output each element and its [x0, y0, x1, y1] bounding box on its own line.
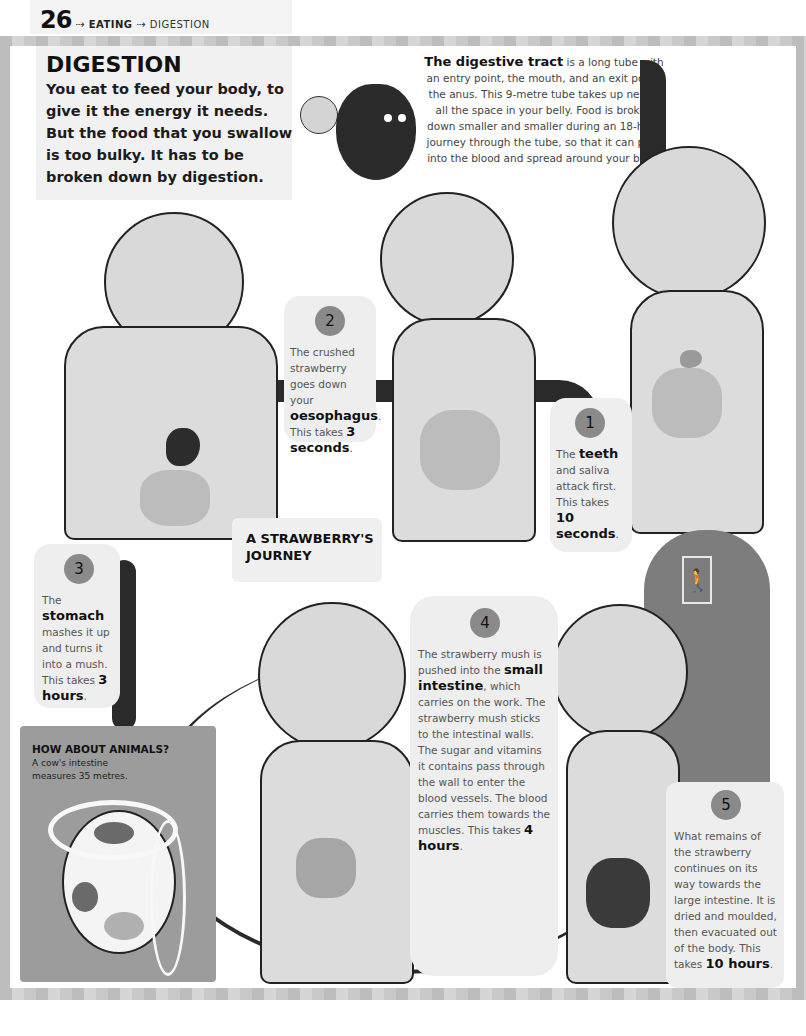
step-text: .	[84, 690, 87, 702]
step-text: The crushed strawberry goes down your	[290, 346, 355, 406]
eye-icon	[384, 114, 392, 122]
digestive-tract-lead: The digestive tract	[424, 54, 563, 69]
step-text: The	[42, 594, 62, 606]
step-keyword: oesophagus	[290, 408, 378, 423]
step-number-badge: 3	[64, 554, 94, 584]
dotted-arrow-icon: ⇢	[75, 18, 84, 31]
step-keyword: teeth	[579, 446, 618, 461]
eye-icon	[398, 114, 406, 122]
dotted-arrow-icon: ⇢	[137, 18, 146, 31]
person-icon: 🚶	[682, 556, 712, 604]
step-number-badge: 1	[575, 408, 605, 438]
step-text: and saliva attack first. This takes	[556, 464, 616, 508]
step-card-4: 4 The strawberry mush is pushed into the…	[410, 596, 558, 976]
breadcrumb-eating[interactable]: EATING	[89, 19, 133, 30]
step-card-3: 3 The stomach mashes it up and turns it …	[34, 544, 120, 708]
intestine-illustration	[296, 838, 356, 898]
door-sign-glyph: 🚶	[684, 568, 711, 593]
step-text: What remains of the strawberry continues…	[674, 830, 777, 970]
page-title: DIGESTION	[46, 52, 182, 77]
cow-udder	[104, 912, 144, 940]
step-number-badge: 5	[711, 790, 741, 820]
step-text: The	[556, 448, 579, 460]
page-number: 26	[40, 6, 71, 34]
torso-illustration	[566, 730, 680, 984]
journey-label: A STRAWBERRY'S JOURNEY	[232, 518, 382, 582]
step-card-2: 2 The crushed strawberry goes down your …	[284, 296, 376, 442]
journey-label-line2: JOURNEY	[246, 547, 382, 564]
head-illustration	[258, 602, 406, 750]
step-duration: 10 hours	[706, 956, 770, 971]
digestive-tract-body: is a long tube with an entry point, the …	[426, 56, 663, 164]
step-keyword: stomach	[42, 608, 104, 623]
step-duration: 10 seconds	[556, 510, 616, 541]
strawberry-character-illustration	[336, 84, 416, 180]
digestive-tract-text: The digestive tract is a long tube with …	[424, 54, 664, 166]
cow-spot	[72, 882, 98, 912]
breadcrumb: 26 ⇢ EATING ⇢ DIGESTION	[40, 6, 210, 34]
animals-title: HOW ABOUT ANIMALS?	[32, 743, 169, 755]
head-illustration	[552, 604, 688, 740]
polka-dot-bundle-illustration	[300, 96, 338, 134]
animals-text: A cow's intestine measures 35 metres.	[32, 757, 152, 783]
journey-label-line1: A STRAWBERRY'S	[246, 530, 382, 547]
step-text: .	[460, 840, 463, 852]
step-card-1: 1 The teeth and saliva attack first. Thi…	[550, 398, 632, 552]
step-text: .	[770, 958, 773, 970]
measuring-tape-illustration	[150, 820, 186, 976]
head-illustration	[380, 192, 514, 326]
step-text: .	[616, 528, 619, 540]
intestine-illustration	[420, 410, 500, 490]
intestine-illustration	[652, 368, 722, 438]
intestine-illustration	[140, 470, 210, 526]
breadcrumb-digestion: DIGESTION	[150, 19, 210, 30]
step-card-5: 5 What remains of the strawberry continu…	[666, 782, 784, 988]
step-text: , which carries on the work. The strawbe…	[418, 680, 550, 836]
step-number-badge: 2	[315, 306, 345, 336]
head-illustration	[612, 146, 766, 300]
intro-text: You eat to feed your body, to give it th…	[46, 78, 296, 188]
large-intestine-illustration	[586, 858, 650, 928]
step-text: .	[350, 442, 353, 454]
step-number-badge: 4	[470, 608, 500, 638]
